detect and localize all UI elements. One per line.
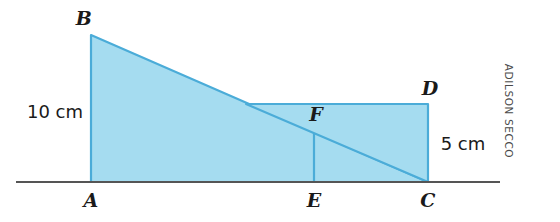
geometry-figure: B A F E D C 10 cm 5 cm ADILSON SECCO — [0, 0, 560, 222]
vertex-label-e: E — [307, 191, 322, 210]
vertex-label-c: C — [420, 191, 435, 210]
measure-label-cd: 5 cm — [441, 135, 486, 153]
vertex-label-a: A — [84, 191, 99, 210]
illustration-credit: ADILSON SECCO — [503, 64, 515, 158]
vertex-label-d: D — [422, 79, 439, 98]
vertex-label-b: B — [76, 9, 92, 28]
vertex-label-f: F — [309, 105, 323, 124]
measure-label-ab: 10 cm — [27, 103, 83, 121]
